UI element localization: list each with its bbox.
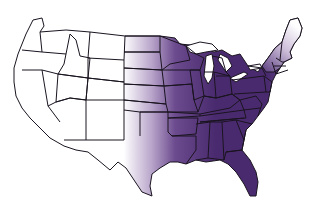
us-map bbox=[0, 0, 310, 212]
us-outline bbox=[14, 18, 302, 196]
